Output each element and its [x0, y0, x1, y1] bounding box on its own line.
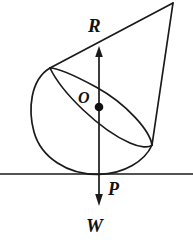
cone-left-edge: [50, 3, 173, 68]
center-of-mass-dot: [95, 103, 104, 112]
cone-right-edge: [152, 3, 173, 145]
label-reaction-R: R: [88, 16, 101, 35]
label-weight-W: W: [86, 216, 103, 235]
physics-figure: R O P W: [0, 0, 193, 243]
label-contact-point-P: P: [108, 180, 119, 198]
label-center-O: O: [78, 90, 90, 106]
weight-force-arrow: [95, 174, 103, 206]
figure-svg: [0, 0, 193, 243]
